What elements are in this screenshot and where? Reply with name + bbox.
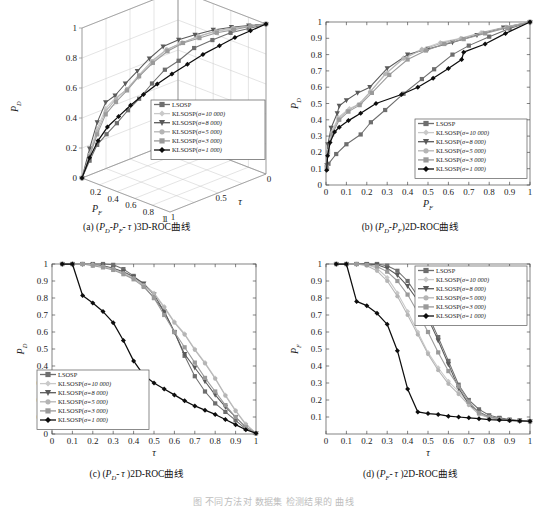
series-marker (203, 408, 208, 413)
series-marker (432, 67, 436, 71)
axis-tick-x: 0.5 (422, 436, 434, 446)
series-marker (467, 400, 471, 404)
legend-item-label: KLSOSP(σ=10 000) (436, 129, 489, 137)
series-marker (383, 108, 387, 112)
series-marker (203, 376, 207, 380)
axis-tick-y: 0 (267, 174, 272, 184)
axis-tick-x: 0.9 (504, 436, 516, 446)
panel-d: 00.10.20.30.40.50.60.70.80.910.10.20.30.… (274, 242, 547, 464)
series-marker (162, 386, 167, 391)
legend-item-label: KLSOSP(σ=1 000) (436, 312, 486, 320)
legend-item-label: KLSOSP(σ=3 000) (436, 303, 486, 311)
axis-tick-x: 0.4 (402, 187, 414, 197)
caption-d-prefix: (d) ( (363, 469, 380, 479)
series-marker (436, 350, 440, 354)
axis-tick-y: 0.4 (311, 361, 323, 371)
series-marker (203, 361, 207, 365)
axis-tick-x: 1 (528, 187, 533, 197)
axis-tick-x: 0.2 (361, 187, 372, 197)
panel-c-plot: 00.10.20.30.40.50.60.70.80.9100.10.20.30… (0, 242, 274, 464)
series-marker (335, 111, 340, 116)
series-marker (104, 112, 108, 116)
series-marker (172, 392, 177, 397)
panel-b: 00.10.20.30.40.50.60.70.80.9100.10.20.30… (274, 0, 547, 218)
series-marker (181, 41, 185, 45)
axis-tick-x: 0.5 (422, 187, 434, 197)
series-marker (483, 31, 487, 35)
legend-item-label: KLSOSP(σ=1 000) (172, 146, 222, 154)
legend-item-label: KLSOSP(σ=10 000) (436, 276, 489, 284)
series-marker (406, 313, 410, 317)
legend-item-label: KLSOSP(σ=8 000) (172, 119, 222, 127)
series-marker (104, 132, 108, 136)
series-marker (121, 338, 126, 343)
series-marker (334, 152, 338, 156)
series-marker (423, 121, 428, 126)
legend-item-label: KLSOSP(σ=1 000) (58, 416, 108, 424)
axis-tick-y: 1 (318, 17, 323, 27)
caption-a-tail: )3D-ROC曲线 (131, 222, 191, 232)
series-marker (359, 132, 363, 136)
axis-tick-x: 0 (50, 436, 55, 446)
axis-tick-x: 0.8 (484, 187, 496, 197)
series-marker (385, 270, 389, 274)
axis-tick-y: 0.2 (311, 395, 322, 405)
legend-item-label: KLSOSP(σ=10 000) (58, 380, 111, 388)
axis-tick-y: 0.3 (311, 378, 323, 388)
series-marker (192, 403, 197, 408)
axis-tick-y: 0.5 (37, 344, 49, 354)
series-marker (355, 262, 359, 266)
series-marker (192, 46, 196, 50)
axis-label-y: PF (289, 343, 302, 355)
series-marker (395, 269, 399, 273)
axis-tick-y: 0.4 (311, 115, 323, 125)
series-marker (223, 394, 227, 398)
series-marker (232, 28, 236, 32)
series-marker (420, 48, 424, 52)
series-marker (151, 61, 155, 65)
series-marker (162, 305, 166, 309)
series-marker (103, 100, 108, 105)
series-marker (233, 422, 238, 427)
series-marker (81, 262, 85, 266)
series-marker (346, 110, 350, 114)
series-marker (383, 72, 387, 76)
series-marker (387, 73, 391, 77)
legend-item-label: KLSOSP(σ=10 000) (172, 110, 225, 118)
series-marker (121, 272, 125, 276)
legend: LSOSPKLSOSP(σ=10 000)KLSOSP(σ=8 000)KLSO… (37, 370, 149, 430)
series-marker (406, 293, 410, 297)
axis-tick-y: 0.3 (311, 131, 323, 141)
series-marker (375, 269, 379, 273)
caption-a-prefix: (a) ( (83, 222, 99, 232)
legend-item-label: KLSOSP(σ=3 000) (436, 156, 486, 164)
axis-label-x: τ (426, 447, 430, 458)
legend-item-label: KLSOSP(σ=5 000) (172, 128, 222, 136)
series-marker (45, 372, 50, 377)
series-marker (462, 37, 466, 41)
legend-item-label: LSOSP (58, 371, 78, 378)
axis-tick-x: 0 (324, 187, 329, 197)
series-marker (213, 377, 217, 381)
series-marker (401, 57, 405, 61)
series-marker (213, 401, 217, 405)
series-marker (505, 26, 509, 30)
legend-item-label: LSOSP (172, 101, 192, 108)
series-marker (114, 100, 118, 104)
panel-a: 00.20.40.60.810.20.40.60.8110.501PDPFτLS… (0, 0, 274, 218)
legend-item-label: LSOSP (436, 120, 456, 127)
series-marker (232, 35, 237, 40)
axis-tick-x: 0.2 (87, 436, 98, 446)
series-marker (203, 389, 207, 393)
panel-c-caption: (c) (PD- τ )2D-ROC曲线 (0, 466, 274, 481)
series-marker (234, 415, 238, 419)
series-marker (416, 332, 420, 336)
axis-tick-y: 0.6 (311, 82, 323, 92)
caption-c-prefix: (c) ( (90, 469, 106, 479)
series-marker (456, 415, 461, 420)
figure-bottom-caption: 图 不同方法对 数据集 检测结果的 曲线 (0, 495, 547, 508)
axis-tick-y: 0.7 (37, 310, 49, 320)
series-marker (426, 330, 430, 334)
series-marker (217, 43, 222, 48)
series-marker (423, 295, 428, 300)
